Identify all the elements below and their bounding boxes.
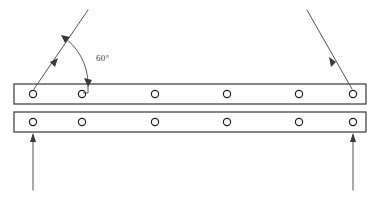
angle-label: 60° xyxy=(96,53,109,63)
bottom-bar-hole-1 xyxy=(29,118,36,125)
left-applied-force-line xyxy=(34,10,88,89)
bottom-bar xyxy=(14,112,366,132)
right-reaction-force-arrowhead xyxy=(350,133,356,142)
top-bar-hole-4 xyxy=(223,90,230,97)
top-bar-hole-2 xyxy=(78,90,85,97)
force-diagram: 60° xyxy=(0,0,376,199)
right-applied-force-line xyxy=(307,10,352,89)
left-reaction-force-arrowhead xyxy=(30,133,36,142)
top-bar-hole-3 xyxy=(151,90,158,97)
sixty-degree-arc xyxy=(62,36,88,84)
bottom-bar-hole-5 xyxy=(295,118,302,125)
bottom-bar-hole-4 xyxy=(223,118,230,125)
top-bar-hole-1 xyxy=(29,90,36,97)
diagram-canvas: 60° xyxy=(0,0,376,199)
bottom-bar-hole-2 xyxy=(78,118,85,125)
top-bar xyxy=(14,84,366,104)
bottom-bar-hole-6 xyxy=(349,118,356,125)
bottom-bar-hole-3 xyxy=(151,118,158,125)
top-bar-hole-5 xyxy=(295,90,302,97)
top-bar-hole-6 xyxy=(349,90,356,97)
